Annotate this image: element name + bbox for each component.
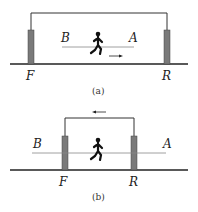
label-r: R: [128, 175, 138, 189]
arrow-left-icon: [92, 111, 106, 114]
panel-a: B A F R (a): [10, 13, 188, 96]
label-a: A: [162, 137, 172, 151]
panel-b: B A F R (b): [10, 111, 188, 203]
walking-person-icon: [91, 138, 102, 160]
label-b: B: [60, 31, 70, 45]
overhead-wire: [65, 118, 134, 136]
label-r: R: [161, 69, 171, 83]
arrow-right-icon: [109, 55, 123, 58]
label-f: F: [58, 175, 68, 189]
label-a: A: [128, 31, 138, 45]
overhead-wire: [31, 13, 167, 30]
post-r: [164, 30, 170, 64]
caption-a: (a): [92, 86, 104, 96]
caption-b: (b): [92, 192, 105, 202]
post-f: [28, 30, 34, 64]
walking-person-icon: [91, 32, 102, 54]
label-b: B: [32, 137, 42, 151]
label-f: F: [25, 69, 35, 83]
diagram-canvas: B A F R (a) B A F R (b): [0, 0, 198, 212]
